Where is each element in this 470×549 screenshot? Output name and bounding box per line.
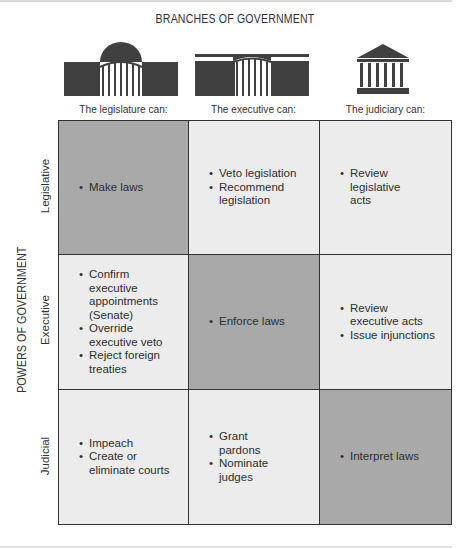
power-item: Nominate judges: [209, 457, 291, 484]
power-item: Review legislative acts: [340, 167, 410, 208]
power-item: Recommend legislation: [209, 181, 299, 208]
power-item: Create or eliminate courts: [79, 450, 171, 477]
column-header-judiciary: The judiciary can:: [328, 103, 443, 115]
power-list: Review executive acts Issue injunctions: [340, 302, 436, 343]
bottom-rule: [0, 546, 452, 548]
power-item: Reject foreign treaties: [79, 349, 165, 376]
power-item: Grant pardons: [209, 430, 291, 457]
white-house-icon: [195, 54, 309, 98]
power-item: Make laws: [79, 181, 143, 195]
power-item: Veto legislation: [209, 167, 299, 181]
capitol-dome-icon: [64, 42, 178, 98]
cell-executive-executive: Enforce laws: [189, 255, 320, 390]
powers-axis-label: POWERS OF GOVERNMENT: [15, 249, 29, 393]
row-label-judicial: Judicial: [39, 406, 51, 506]
cell-executive-judicial: Grant pardons Nominate judges: [189, 390, 320, 524]
power-item: Impeach: [79, 437, 171, 451]
cell-legislature-executive: Confirm executive appointments (Senate) …: [59, 255, 189, 390]
power-item: Issue injunctions: [340, 329, 436, 343]
supreme-court-icon: [357, 44, 409, 96]
powers-grid: Make laws Veto legislation Recommend leg…: [58, 120, 452, 525]
power-list: Interpret laws: [340, 450, 419, 464]
column-header-executive: The executive can:: [196, 103, 311, 115]
cell-judiciary-judicial: Interpret laws: [320, 390, 451, 524]
power-item: Enforce laws: [209, 315, 285, 329]
power-item: Override executive veto: [79, 322, 165, 349]
column-header-legislature: The legislature can:: [66, 103, 181, 115]
diagram-title: BRANCHES OF GOVERNMENT: [28, 12, 442, 26]
power-list: Make laws: [79, 181, 143, 195]
cell-executive-legislative: Veto legislation Recommend legislation: [189, 121, 320, 255]
power-list: Veto legislation Recommend legislation: [209, 167, 299, 208]
power-item: Review executive acts: [340, 302, 436, 329]
row-label-executive: Executive: [39, 270, 51, 370]
cell-judiciary-legislative: Review legislative acts: [320, 121, 451, 255]
power-list: Confirm executive appointments (Senate) …: [79, 268, 165, 376]
power-list: Grant pardons Nominate judges: [209, 430, 291, 484]
top-rule: [0, 0, 452, 2]
power-item: Interpret laws: [340, 450, 419, 464]
cell-legislature-judicial: Impeach Create or eliminate courts: [59, 390, 189, 524]
power-list: Impeach Create or eliminate courts: [79, 437, 171, 478]
power-list: Enforce laws: [209, 315, 285, 329]
cell-judiciary-executive: Review executive acts Issue injunctions: [320, 255, 451, 390]
power-item: Confirm executive appointments (Senate): [79, 268, 165, 322]
power-list: Review legislative acts: [340, 167, 410, 208]
cell-legislature-legislative: Make laws: [59, 121, 189, 255]
row-label-legislative: Legislative: [39, 136, 51, 236]
